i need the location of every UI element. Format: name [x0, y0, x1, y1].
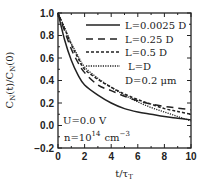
- note-density: n=1014cm−3: [64, 130, 130, 143]
- svg-text:0: 0: [55, 151, 61, 162]
- svg-text:6: 6: [135, 151, 141, 162]
- note-voltage: U=0.0 V: [63, 115, 107, 126]
- svg-text:8: 8: [162, 151, 168, 162]
- x-axis-label: t/τT: [115, 168, 133, 181]
- svg-text:10: 10: [185, 151, 197, 162]
- svg-text:−0.2: −0.2: [34, 143, 54, 154]
- note-thickness: D=0.2 μm: [125, 75, 177, 86]
- svg-text:0.2: 0.2: [40, 98, 54, 109]
- legend-label-2: L=0.5 D: [125, 47, 167, 58]
- svg-text:0.4: 0.4: [40, 75, 54, 86]
- y-axis-label: CN(t)/CN(0): [4, 51, 17, 108]
- legend-label-1: L=0.25 D: [125, 34, 173, 45]
- legend-label-0: L=0.0025 D: [125, 20, 186, 31]
- svg-text:2: 2: [82, 151, 88, 162]
- legend-label-3: L=D: [128, 61, 151, 72]
- note-density-text: n=1014cm−3: [64, 130, 130, 143]
- legend: L=0.0025 D L=0.25 D L=0.5 D L=D D=0.2 μm: [86, 20, 186, 86]
- svg-text:0.8: 0.8: [40, 30, 54, 41]
- chart: 1.00.80.60.40.20.0−0.2 0246810 L=0.0025 …: [0, 0, 204, 184]
- svg-text:1.0: 1.0: [40, 8, 54, 19]
- svg-text:0.0: 0.0: [40, 120, 54, 131]
- svg-text:4: 4: [108, 151, 114, 162]
- svg-text:0.6: 0.6: [40, 53, 54, 64]
